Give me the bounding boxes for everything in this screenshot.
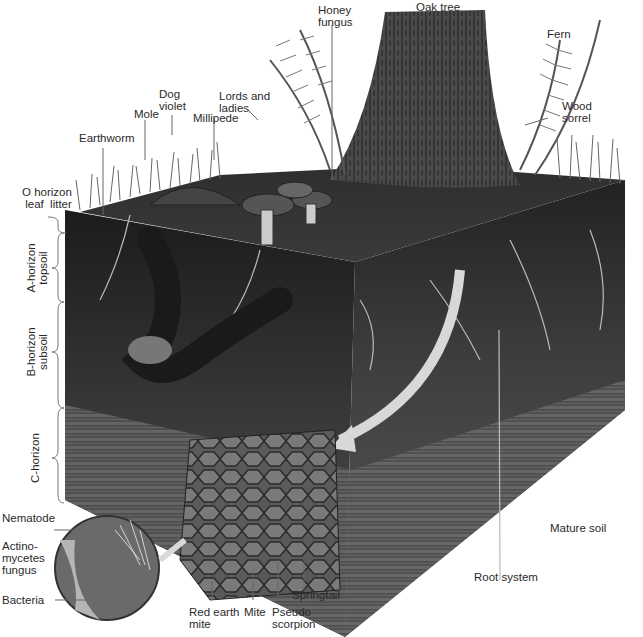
label-dog-violet: Dog violet	[159, 88, 186, 112]
label-springtail: Springtail	[292, 589, 340, 601]
label-root-system: Root system	[474, 571, 538, 583]
horizon-braces	[48, 217, 66, 503]
label-nematode: Nematode	[2, 512, 55, 524]
microorganism-closeup	[55, 516, 159, 620]
label-b-horizon: B-horizon subsoil	[25, 317, 49, 387]
label-red-earth-mite: Red earth mite	[189, 606, 240, 630]
label-mole: Mole	[134, 108, 159, 120]
label-honey-fungus: Honey fungus	[318, 4, 353, 28]
mole	[128, 336, 172, 364]
label-a-horizon: A-horizon topsoil	[25, 233, 49, 303]
label-c-horizon: C-horizon	[29, 423, 41, 493]
label-pseudo-scorpion: Pseudo scorpion	[272, 606, 315, 630]
label-earthworm: Earthworm	[79, 132, 135, 144]
label-wood-sorrel: Wood sorrel	[562, 100, 592, 124]
label-mite: Mite	[244, 606, 266, 618]
soil-block-illustration	[0, 0, 643, 637]
oak-tree-trunk	[330, 10, 520, 188]
label-millipede: Millipede	[193, 112, 238, 124]
label-oak-tree: Oak tree	[416, 1, 460, 13]
label-bacteria: Bacteria	[2, 594, 44, 606]
label-lords-and-ladies: Lords and ladies	[219, 90, 270, 114]
label-o-horizon: O horizon leaf litter	[22, 186, 72, 210]
label-mature-soil: Mature soil	[550, 522, 606, 534]
soil-microfauna-closeup	[180, 430, 340, 600]
label-actinomycetes-fungus: Actino- mycetes fungus	[2, 540, 45, 576]
label-fern: Fern	[547, 28, 571, 40]
